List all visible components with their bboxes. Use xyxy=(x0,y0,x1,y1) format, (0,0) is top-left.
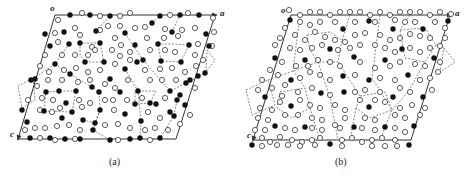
open-atom-icon xyxy=(46,69,51,74)
filled-atom-icon xyxy=(134,59,139,64)
filled-atom-icon xyxy=(202,70,207,75)
open-atom-icon xyxy=(275,72,280,77)
open-atom-icon xyxy=(92,47,97,52)
open-atom-icon xyxy=(448,11,453,16)
open-atom-icon xyxy=(142,24,147,29)
open-atom-icon xyxy=(382,143,387,148)
open-atom-icon xyxy=(127,10,132,15)
open-atom-icon xyxy=(372,19,377,24)
tiling-polygon xyxy=(356,92,392,118)
open-atom-icon xyxy=(337,9,342,14)
tiling-polygon xyxy=(400,28,436,62)
open-atom-icon xyxy=(312,29,317,34)
open-atom-icon xyxy=(50,97,55,102)
panel-b-origin-label: o xyxy=(281,5,286,15)
filled-atom-icon xyxy=(24,119,29,124)
open-atom-icon xyxy=(102,97,107,102)
open-atom-icon xyxy=(25,97,30,102)
open-atom-icon xyxy=(55,17,60,22)
open-atom-icon xyxy=(72,136,77,141)
open-atom-icon xyxy=(117,53,122,58)
open-atom-icon xyxy=(392,49,397,54)
open-atom-icon xyxy=(339,143,344,148)
open-atom-icon xyxy=(422,63,427,68)
open-atom-icon xyxy=(267,139,272,144)
tiling-polygon xyxy=(206,50,215,72)
open-atom-icon xyxy=(339,137,344,142)
open-atom-icon xyxy=(372,97,377,102)
open-atom-icon xyxy=(192,25,197,30)
open-atom-icon xyxy=(169,65,174,70)
filled-atom-icon xyxy=(137,135,142,140)
filled-atom-icon xyxy=(382,57,387,62)
open-atom-icon xyxy=(317,19,322,24)
open-atom-icon xyxy=(195,41,200,46)
open-atom-icon xyxy=(342,39,347,44)
open-atom-icon xyxy=(382,99,387,104)
open-atom-icon xyxy=(397,105,402,110)
filled-atom-icon xyxy=(302,124,307,129)
open-atom-icon xyxy=(192,85,197,90)
open-atom-icon xyxy=(319,117,324,122)
open-atom-icon xyxy=(147,137,152,142)
open-atom-icon xyxy=(417,77,422,82)
open-atom-icon xyxy=(85,69,90,74)
open-atom-icon xyxy=(117,23,122,28)
open-atom-icon xyxy=(327,77,332,82)
filled-atom-icon xyxy=(195,73,200,78)
open-atom-icon xyxy=(52,137,57,142)
open-atom-icon xyxy=(397,85,402,90)
open-atom-icon xyxy=(87,100,92,105)
open-atom-icon xyxy=(362,115,367,120)
open-atom-icon xyxy=(332,19,337,24)
open-atom-icon xyxy=(309,85,314,90)
open-atom-icon xyxy=(297,143,302,148)
open-atom-icon xyxy=(319,127,324,132)
open-atom-icon xyxy=(255,87,260,92)
filled-atom-icon xyxy=(80,117,85,122)
open-atom-icon xyxy=(309,45,314,50)
open-atom-icon xyxy=(118,42,123,47)
open-atom-icon xyxy=(295,112,300,117)
open-atom-icon xyxy=(402,19,407,24)
open-atom-icon xyxy=(397,35,402,40)
filled-atom-icon xyxy=(101,59,106,64)
open-atom-icon xyxy=(392,125,397,130)
open-atom-icon xyxy=(442,25,447,30)
open-atom-icon xyxy=(72,25,77,30)
open-atom-icon xyxy=(277,134,282,139)
filled-atom-icon xyxy=(62,136,67,141)
open-atom-icon xyxy=(85,52,90,57)
open-atom-icon xyxy=(332,122,337,127)
open-atom-icon xyxy=(387,63,392,68)
open-atom-icon xyxy=(187,112,192,117)
open-atom-icon xyxy=(442,35,447,40)
open-atom-icon xyxy=(372,42,377,47)
open-atom-icon xyxy=(162,26,167,31)
open-atom-icon xyxy=(193,63,198,68)
open-atom-icon xyxy=(412,61,417,66)
filled-atom-icon xyxy=(196,12,201,17)
open-atom-icon xyxy=(407,31,412,36)
filled-atom-icon xyxy=(288,103,293,108)
filled-atom-icon xyxy=(206,43,211,48)
filled-atom-icon xyxy=(327,46,332,51)
filled-atom-icon xyxy=(288,77,293,82)
open-atom-icon xyxy=(387,12,392,17)
open-atom-icon xyxy=(347,9,352,14)
open-atom-icon xyxy=(357,97,362,102)
open-atom-icon xyxy=(66,122,71,127)
tiling-line xyxy=(392,62,425,110)
open-atom-icon xyxy=(77,32,82,37)
tiling-polygon xyxy=(18,78,35,108)
filled-atom-icon xyxy=(366,18,371,23)
open-atom-icon xyxy=(162,47,167,52)
filled-atom-icon xyxy=(177,12,182,17)
panel-b-diagram xyxy=(246,7,455,148)
open-atom-icon xyxy=(97,67,102,72)
open-atom-icon xyxy=(55,39,60,44)
panel-a-origin-label: o xyxy=(50,3,55,13)
open-atom-icon xyxy=(402,115,407,120)
open-atom-icon xyxy=(110,97,115,102)
filled-atom-icon xyxy=(135,88,140,93)
